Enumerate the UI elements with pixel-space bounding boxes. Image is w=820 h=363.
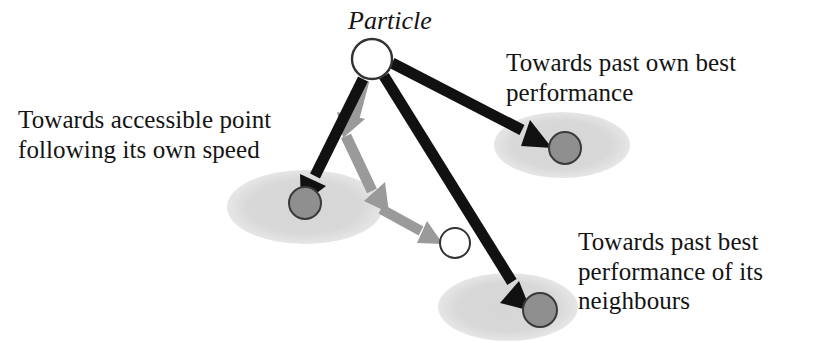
particle-label: Particle (348, 6, 432, 36)
pso-particle-diagram: Particle Towards accessible point follow… (0, 0, 820, 363)
neighbour-best-marker (523, 293, 557, 327)
towards-neighbour-best-arrow (384, 76, 531, 311)
accessible-point (440, 228, 470, 258)
own-best-marker (549, 132, 581, 164)
velocity-vector-segment-3 (381, 209, 443, 244)
speed-target-marker (289, 187, 321, 219)
particle (352, 39, 392, 79)
caption-towards-past-best-performance-of-neighbours: Towards past best performance of its nei… (578, 227, 818, 316)
caption-towards-accessible-point: Towards accessible point following its o… (18, 105, 348, 164)
caption-towards-past-own-best-performance: Towards past own best performance (506, 48, 811, 107)
